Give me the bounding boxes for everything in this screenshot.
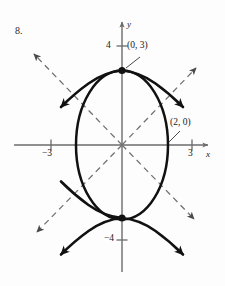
x-tick-label-neg3: −3 [42,149,52,159]
y-tick-label-4: 4 [106,41,111,51]
x-axis-label: x [206,150,210,159]
math-figure: 8. y x 4 −4 −3 3 (0, 3) (2, 0) [0,0,225,286]
x-tick-label-3: 3 [188,149,193,159]
leader-line-vertex-right [169,131,180,142]
y-tick-label-neg4: −4 [104,234,114,244]
problem-number: 8. [15,26,23,36]
marked-point-top [118,67,125,74]
y-axis [117,22,128,272]
asymptote-positive-slope [37,68,196,232]
asymptote-negative-slope [34,54,194,219]
marked-point-bottom [118,214,125,221]
leader-line-vertex-top [126,57,140,68]
vertex-top-label: (0, 3) [127,41,148,51]
vertex-right-label: (2, 0) [170,118,191,128]
y-axis-label: y [127,20,131,29]
